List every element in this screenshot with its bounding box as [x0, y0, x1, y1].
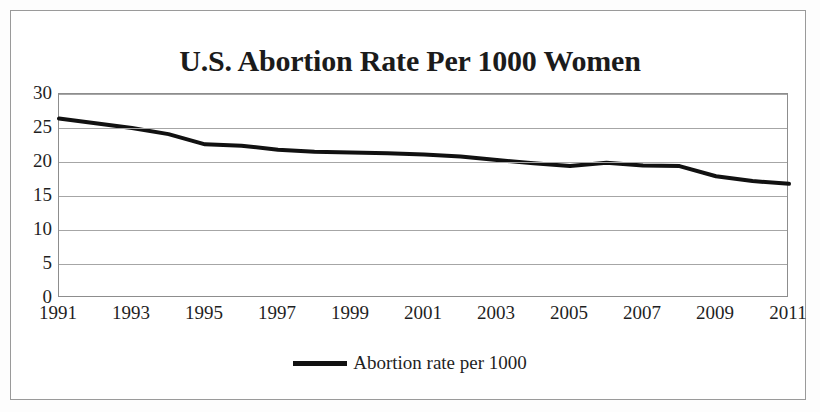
- x-tick-label: 2009: [680, 303, 750, 324]
- y-tick-label: 5: [8, 253, 52, 272]
- chart-title: U.S. Abortion Rate Per 1000 Women: [60, 44, 760, 78]
- y-tick-label: 20: [8, 151, 52, 170]
- chart-figure: U.S. Abortion Rate Per 1000 Women 302520…: [0, 0, 820, 412]
- x-tick-label: 1991: [23, 303, 93, 324]
- legend-entry: Abortion rate per 1000: [293, 352, 527, 374]
- x-tick-label: 1997: [242, 303, 312, 324]
- x-tick-label: 1993: [96, 303, 166, 324]
- y-axis-tick-labels: 302520151050: [6, 93, 52, 297]
- legend-label: Abortion rate per 1000: [353, 352, 527, 374]
- gridline: [59, 94, 787, 95]
- x-tick-label: 1999: [315, 303, 385, 324]
- y-tick-label: 25: [8, 117, 52, 136]
- y-tick-label: 15: [8, 185, 52, 204]
- gridline: [59, 196, 787, 197]
- gridline: [59, 230, 787, 231]
- x-tick-label: 2001: [388, 303, 458, 324]
- x-axis-tick-labels: 1991199319951997199920012003200520072009…: [58, 303, 788, 333]
- y-tick-label: 30: [8, 83, 52, 102]
- x-tick-label: 2007: [607, 303, 677, 324]
- plot-area: [58, 93, 788, 297]
- chart-legend: Abortion rate per 1000: [0, 352, 820, 374]
- gridline: [59, 128, 787, 129]
- x-tick-label: 2003: [461, 303, 531, 324]
- gridline: [59, 264, 787, 265]
- x-tick-label: 2011: [753, 303, 820, 324]
- y-tick-label: 10: [8, 219, 52, 238]
- x-tick-label: 2005: [534, 303, 604, 324]
- legend-line-swatch: [293, 361, 347, 366]
- x-tick-label: 1995: [169, 303, 239, 324]
- gridline: [59, 162, 787, 163]
